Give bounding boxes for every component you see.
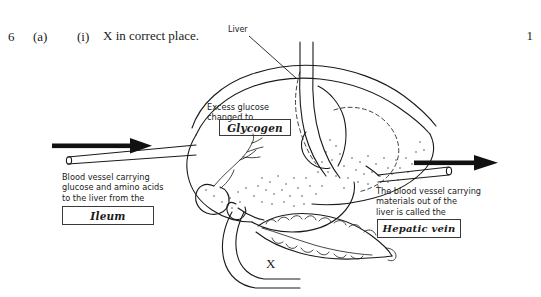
pancreas — [256, 214, 396, 261]
answer-hepatic-vein: Hepatic vein — [383, 223, 456, 234]
outgoing-vessel-opening — [446, 167, 451, 175]
inflow-arrow — [52, 138, 152, 154]
answer-glycogen: Glycogen — [227, 122, 283, 134]
vena-cava-right-wall — [313, 42, 340, 178]
x-mark-label: X — [266, 256, 276, 271]
answer-box-ileum[interactable]: Ileum — [62, 206, 154, 225]
outflow-connector — [366, 166, 379, 176]
answer-box-glycogen[interactable]: Glycogen — [219, 119, 291, 136]
exam-page: 6 (a) (i) X in correct place. 1 — [0, 0, 541, 297]
incoming-vessel-bottom-wall — [68, 155, 196, 164]
liver-right-lobe-dashed-contour — [334, 107, 399, 192]
answer-box-hepatic-vein[interactable]: Hepatic vein — [377, 219, 461, 238]
liver-left-lobe — [187, 135, 252, 222]
lobe-fissure — [318, 86, 346, 166]
liver-label: Liver — [228, 25, 248, 35]
outgoing-vessel-note: The blood vessel carrying materials out … — [376, 186, 481, 217]
outflow-arrow — [414, 155, 498, 171]
incoming-vessel-note: Blood vessel carrying glucose and amino … — [62, 172, 163, 203]
answer-ileum: Ileum — [90, 210, 125, 222]
liver-diagram: X — [0, 0, 541, 297]
liver-leader-line — [249, 36, 296, 78]
outgoing-vessel-bottom-wall — [378, 175, 449, 182]
incoming-vessel-opening — [66, 157, 71, 165]
stomach-outline — [252, 182, 355, 232]
